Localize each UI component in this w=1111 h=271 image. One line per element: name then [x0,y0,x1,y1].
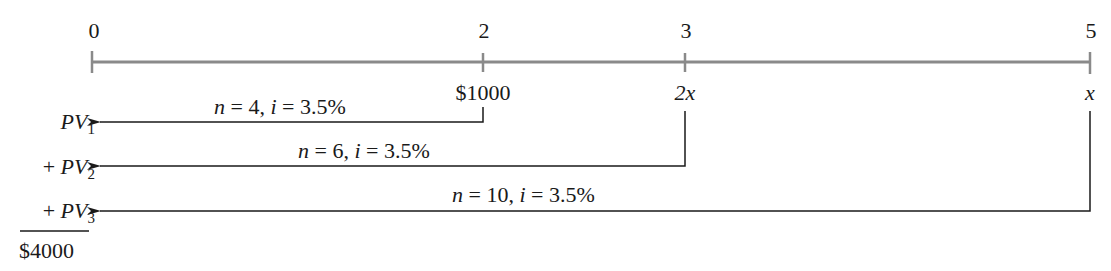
period-label-3: 3 [681,20,692,42]
total-value: $4000 [19,240,74,262]
period-label-0: 0 [89,20,100,42]
arrow-label-3: n = 10, i = 3.5% [452,184,595,206]
pv2-label: + PV2 [43,156,95,182]
payment-period-2: $1000 [456,82,511,104]
arrow-label-2: n = 6, i = 3.5% [298,140,430,162]
pv1-label: PV1 [61,111,95,137]
timeline-diagram [0,0,1111,271]
period-label-2: 2 [479,20,490,42]
payment-period-5: x [1085,82,1095,104]
period-label-5: 5 [1086,20,1097,42]
pv3-label: + PV3 [43,200,95,226]
arrow-pv3 [100,111,1090,211]
arrow-label-1: n = 4, i = 3.5% [214,96,346,118]
payment-period-3: 2x [675,82,696,104]
